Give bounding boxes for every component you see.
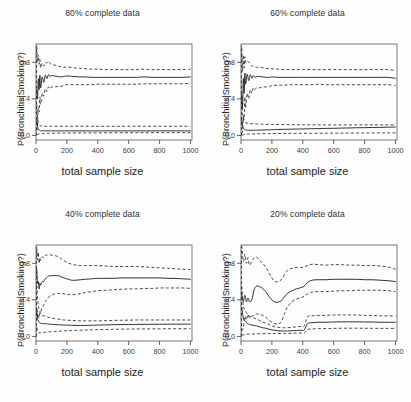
plot-frame [241,245,397,341]
x-tick-label: 200 [61,347,73,356]
figure-multi-panel-plot: 80% complete dataP(Bronchitis|Smoking?)t… [0,0,411,402]
series-lower-group-lower-bound [242,328,396,335]
curve-group [36,46,190,136]
x-tick-label: 1000 [182,347,198,356]
x-tick-label: 800 [359,347,371,356]
x-tick-label: 1000 [387,146,403,155]
x-tick-label: 200 [61,146,73,155]
series-lower-group-mean [37,309,191,325]
x-tick-label: 400 [297,347,309,356]
series-upper-group-mean [242,73,396,108]
x-tick-label: 400 [297,146,309,155]
chart-panel-1: 80% complete dataP(Bronchitis|Smoking?)t… [0,0,205,201]
curve-group [36,247,190,337]
series-upper-group-mean [242,279,396,302]
x-axis-label: total sample size [205,366,410,378]
series-upper-group-lower-bound [242,84,396,133]
series-upper-group-upper-bound [242,48,396,72]
y-tick-label: 0.8 [225,259,235,268]
series-lower-group-lower-bound [242,133,396,135]
chart-panel-2: 60% complete dataP(Bronchitis|Smoking?)t… [205,0,410,201]
series-upper-group-upper-bound [242,246,396,282]
x-tick-label: 600 [123,347,135,356]
plot-frame [241,44,397,140]
y-tick-label: 0.8 [20,58,30,67]
x-axis-label: total sample size [0,165,205,177]
x-tick-label: 200 [266,347,278,356]
x-tick-label: 400 [92,146,104,155]
x-tick-label: 800 [154,146,166,155]
series-lower-group-mean [242,307,396,331]
plot-area: 020040060080010000.00.40.8 [205,0,410,160]
x-tick-label: 0 [239,347,243,356]
plot-area: 020040060080010000.00.40.8 [205,201,410,361]
x-tick-label: 800 [359,146,371,155]
chart-panel-4: 20% complete dataP(Bronchitis|Smoking?)t… [205,201,410,402]
curve-group [241,46,395,136]
series-lower-group-lower-bound [37,133,191,135]
plot-frame [36,245,192,341]
x-tick-label: 600 [328,347,340,356]
series-lower-group-lower-bound [37,327,191,333]
x-tick-label: 400 [92,347,104,356]
series-upper-group-lower-bound [37,83,191,131]
plot-frame [36,44,192,140]
series-upper-group-upper-bound [37,248,191,270]
y-tick-label: 0.0 [225,131,235,140]
x-tick-label: 1000 [387,347,403,356]
chart-panel-3: 40% complete dataP(Bronchitis|Smoking?)t… [0,201,205,402]
series-upper-group-lower-bound [242,290,396,331]
x-tick-label: 1000 [182,146,198,155]
x-axis-label: total sample size [0,366,205,378]
y-tick-label: 0.4 [20,94,30,103]
series-upper-group-upper-bound [37,47,191,70]
x-tick-label: 0 [34,347,38,356]
series-lower-group-mean [37,120,191,131]
plot-area: 020040060080010000.00.40.8 [0,0,205,160]
x-tick-label: 600 [328,146,340,155]
plot-area: 020040060080010000.00.40.8 [0,201,205,361]
y-tick-label: 0.0 [20,131,30,140]
x-tick-label: 800 [154,347,166,356]
series-lower-group-upper-bound [242,97,396,125]
series-lower-group-upper-bound [37,104,191,126]
x-tick-label: 0 [239,146,243,155]
series-lower-group-upper-bound [37,285,191,321]
x-tick-label: 0 [34,146,38,155]
x-tick-label: 200 [266,146,278,155]
y-tick-label: 0.4 [225,295,235,304]
y-tick-label: 0.8 [225,58,235,67]
series-upper-group-lower-bound [37,288,191,318]
x-axis-label: total sample size [205,165,410,177]
series-lower-group-upper-bound [242,286,396,328]
y-tick-label: 0.0 [20,332,30,341]
curve-group [241,246,395,337]
y-tick-label: 0.8 [20,259,30,268]
series-upper-group-mean [37,75,191,100]
y-tick-label: 0.4 [225,94,235,103]
series-upper-group-mean [37,269,191,289]
y-tick-label: 0.4 [20,295,30,304]
x-tick-label: 600 [123,146,135,155]
y-tick-label: 0.0 [225,332,235,341]
